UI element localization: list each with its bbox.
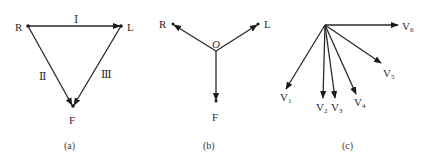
vertex-r-dot [26,24,30,28]
vector-v4-label: V4 [354,96,366,110]
vector-v1-label: V1 [280,91,292,105]
panel-a-caption: (a) [64,140,75,152]
lead-ii-label: Ⅱ [39,70,46,82]
end-f-dot [215,100,218,103]
diagram-canvas: R L F Ⅰ Ⅱ Ⅲ (a) R L O F (b) V1 V2 V3 V4 … [0,0,422,160]
vertex-f-label: F [69,114,75,126]
panel-b-caption: (b) [203,140,215,152]
end-l-label: L [264,18,271,30]
o-to-l-line [216,25,257,51]
o-to-r-line [174,25,216,51]
panel-c-caption: (c) [342,140,353,152]
end-r-label: R [159,18,167,30]
vector-v2-line [323,25,325,98]
vector-v3-label: V3 [331,101,343,115]
center-o-label: O [212,38,220,50]
vector-v5-label: V5 [383,67,395,81]
panel-b-axial-leads: R L O F (b) [159,18,271,152]
end-f-label: F [212,111,218,123]
vector-v6-label: V6 [402,20,414,34]
panel-a-einthoven-triangle: R L F Ⅰ Ⅱ Ⅲ (a) [15,13,134,152]
vector-v2-label: V2 [316,101,328,115]
vertex-l-dot [119,24,123,28]
lead-iii-label: Ⅲ [101,68,112,80]
lead-iii-line [74,26,121,105]
vector-v1-line [286,25,325,89]
vertex-r-label: R [15,21,23,33]
end-r-dot [172,23,175,26]
vertex-f-dot [71,104,75,108]
end-l-dot [257,23,260,26]
vertex-l-label: L [127,21,134,33]
lead-ii-line [28,26,72,105]
panel-c-vector-fan: V1 V2 V3 V4 V5 V6 (c) [280,20,414,152]
lead-i-label: Ⅰ [74,13,78,25]
